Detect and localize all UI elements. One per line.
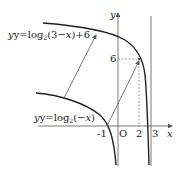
graph-canvas [0,0,179,171]
point-2-6 [138,58,140,60]
y-axis-label: y [110,10,116,20]
upper-curve-label: yy=log2(3−x)+6 [8,30,90,41]
lower-curve-label: yy=log2(−x) [34,113,95,124]
translation-arrow-1 [64,35,96,98]
x-tick-3: 3 [152,129,158,139]
upper-curve [43,23,149,165]
x-axis-label: x [167,129,173,139]
x-tick-neg1: -1 [97,129,107,139]
origin-label: O [119,129,127,139]
translation-arrow-2 [107,61,139,126]
x-tick-2: 2 [136,129,142,139]
y-tick-6: 6 [110,54,116,64]
